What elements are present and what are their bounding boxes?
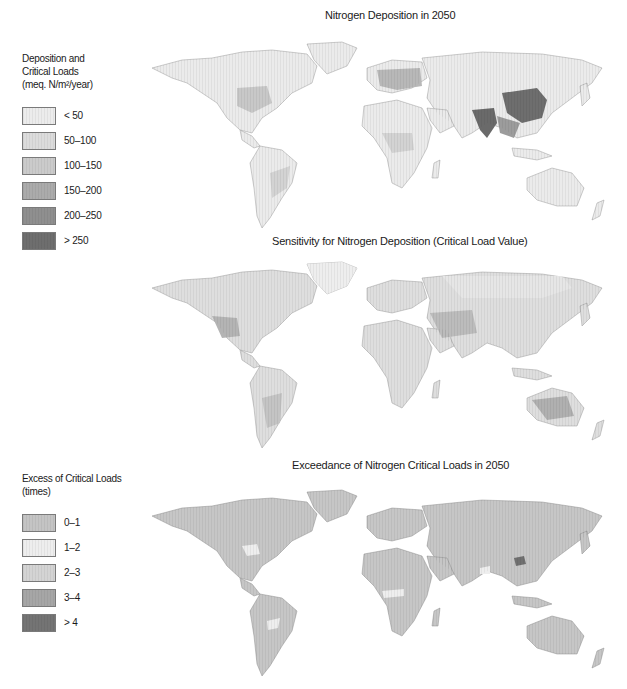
legend-title: Deposition and Critical Loads (meq. N/m²…	[22, 52, 102, 91]
legend-item: 0–1	[22, 510, 122, 535]
map-critical-load-sensitivity	[137, 258, 617, 453]
legend-item: < 50	[22, 103, 102, 128]
legend-swatch	[22, 589, 56, 607]
legend-exceedance: Excess of Critical Loads (times) 0–1 1–2…	[22, 472, 122, 635]
panel-title-deposition: Nitrogen Deposition in 2050	[325, 9, 455, 21]
legend-swatch	[22, 232, 56, 250]
legend-item: 1–2	[22, 535, 122, 560]
legend-item: 2–3	[22, 560, 122, 585]
legend-item: 3–4	[22, 585, 122, 610]
legend-swatch	[22, 107, 56, 125]
legend-item: 100–150	[22, 153, 102, 178]
legend-item: > 4	[22, 610, 122, 635]
map-critical-load-exceedance-2050	[137, 486, 617, 681]
legend-swatch	[22, 157, 56, 175]
map-nitrogen-deposition-2050	[137, 38, 617, 233]
legend-item: 150–200	[22, 178, 102, 203]
legend-swatch	[22, 564, 56, 582]
legend-swatch	[22, 539, 56, 557]
legend-swatch	[22, 132, 56, 150]
legend-swatch	[22, 514, 56, 532]
legend-swatch	[22, 182, 56, 200]
panel-title-sensitivity: Sensitivity for Nitrogen Deposition (Cri…	[272, 235, 528, 247]
panel-title-exceedance: Exceedance of Nitrogen Critical Loads in…	[292, 459, 509, 471]
legend-item: 50–100	[22, 128, 102, 153]
legend-deposition: Deposition and Critical Loads (meq. N/m²…	[22, 52, 102, 253]
legend-swatch	[22, 614, 56, 632]
legend-title: Excess of Critical Loads (times)	[22, 472, 122, 498]
legend-swatch	[22, 207, 56, 225]
legend-item: 200–250	[22, 203, 102, 228]
legend-item: > 250	[22, 228, 102, 253]
